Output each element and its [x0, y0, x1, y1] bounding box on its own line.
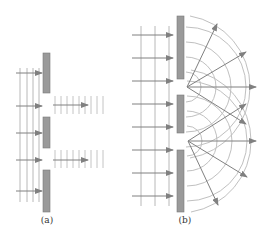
- diffraction-diagram: [0, 0, 269, 240]
- transmitted-wavefronts-a: [55, 96, 103, 168]
- panel-b: [132, 16, 256, 212]
- panel-b-label: (b): [179, 215, 192, 225]
- panel-a-label: (a): [41, 215, 53, 225]
- barrier-a: [43, 53, 50, 212]
- incident-wavefronts-a: [20, 68, 39, 202]
- incident-wavefronts-b: [141, 26, 169, 206]
- transmitted-arrows-a: [53, 105, 88, 160]
- incident-arrows-b: [132, 35, 173, 196]
- panel-a: [16, 53, 103, 212]
- barrier-b: [177, 16, 184, 212]
